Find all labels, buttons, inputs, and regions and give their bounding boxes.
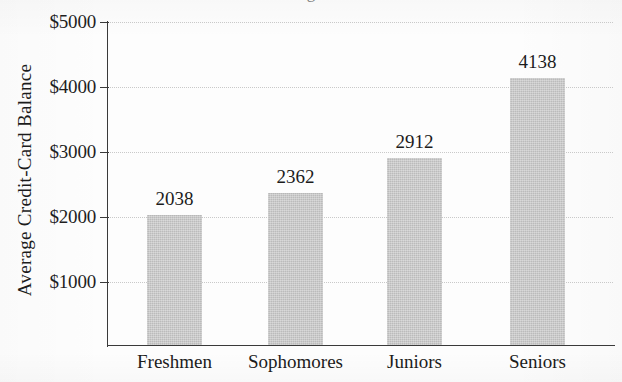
y-axis-tick [100,87,109,88]
chart-figure: g $1000$2000$3000$4000$5000 Average Cred… [0,0,622,382]
y-axis-line [107,21,108,347]
bar [147,215,202,345]
bar [510,78,565,345]
bar [268,193,323,345]
bar [387,158,442,345]
bar-value-label: 2912 [365,132,465,151]
y-axis-tick [100,217,109,218]
x-axis-label-seniors: Seniors [463,351,613,373]
y-axis-tick [100,282,109,283]
y-axis-title: Average Credit-Card Balance [15,20,35,340]
y-axis-tick [100,152,109,153]
bar-value-label: 4138 [488,52,588,71]
bar-value-label: 2362 [246,167,346,186]
y-axis-tick [100,22,109,23]
bar-value-label: 2038 [125,189,225,208]
gridline [107,22,613,23]
x-axis-line [107,345,615,346]
